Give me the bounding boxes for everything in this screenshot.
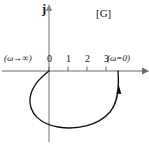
imaginary-axis-label: j [42, 3, 46, 15]
nyquist-plot-figure: j [G] (ω→∞) (ω=0) 0123 [0, 0, 149, 150]
plane-label: [G] [96, 8, 111, 19]
nyquist-locus-curve [30, 71, 119, 128]
tick-label-0: 0 [47, 54, 52, 64]
locus-direction-arrowhead [116, 86, 121, 94]
tick-label-3: 3 [104, 54, 109, 64]
imaginary-axis-arrowhead [46, 4, 52, 11]
real-axis-ticks [49, 67, 106, 72]
nyquist-plot-canvas [0, 0, 149, 150]
omega-infinity-label: (ω→∞) [4, 54, 32, 63]
real-axis-arrowhead [142, 68, 149, 75]
tick-label-1: 1 [66, 54, 71, 64]
tick-label-2: 2 [85, 54, 90, 64]
omega-zero-label: (ω=0) [107, 54, 130, 63]
real-axis-group [2, 68, 149, 75]
